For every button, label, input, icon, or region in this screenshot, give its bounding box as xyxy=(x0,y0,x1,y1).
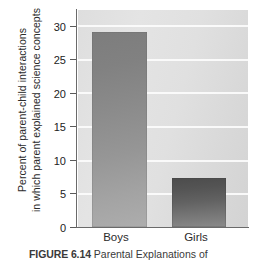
y-tick-label-15: 15 xyxy=(44,122,66,133)
y-axis-title-line-1: Percent of parent-child interactions xyxy=(16,0,30,220)
bar-boys xyxy=(92,32,147,227)
figure-caption-text: Parental Explanations of xyxy=(94,248,208,260)
bar-girls xyxy=(172,178,226,227)
y-axis-title-line-2: in which parent explained science concep… xyxy=(30,0,44,220)
y-tick-label-0: 0 xyxy=(44,223,66,234)
x-tick-label-girls: Girls xyxy=(166,231,226,244)
x-axis-baseline xyxy=(76,227,249,228)
y-tick-label-30: 30 xyxy=(44,22,66,33)
x-tick-label-boys: Boys xyxy=(86,231,146,244)
y-tick-label-5: 5 xyxy=(44,189,66,200)
y-tick-label-20: 20 xyxy=(44,89,66,100)
y-tick-label-10: 10 xyxy=(44,156,66,167)
figure-caption: FIGURE 6.14 Parental Explanations of xyxy=(29,248,259,260)
gridline-30 xyxy=(78,25,248,27)
y-tick-label-25: 25 xyxy=(44,55,66,66)
figure-caption-label: FIGURE 6.14 xyxy=(29,248,91,260)
y-axis-tick-labels: 0 5 10 15 20 25 30 xyxy=(44,0,66,258)
plot-area xyxy=(78,10,248,227)
y-axis-spine xyxy=(76,9,77,228)
